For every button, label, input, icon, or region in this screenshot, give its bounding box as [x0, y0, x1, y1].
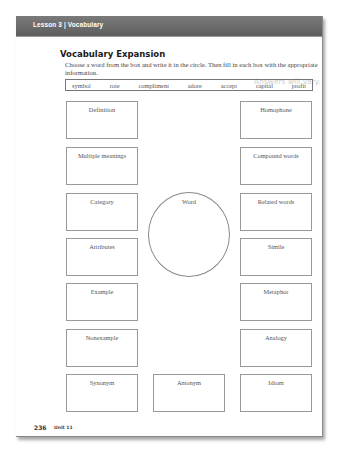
word-bank-item: rote	[110, 82, 120, 89]
box-label: Metaphor	[241, 288, 311, 295]
word-bank-item: adore	[188, 82, 202, 89]
related-words-box[interactable]: Related words	[240, 193, 312, 231]
lesson-header-bar: Lesson 3 | Vocabulary	[16, 16, 322, 37]
box-label: Related words	[241, 198, 311, 205]
box-label: Attributes	[67, 243, 137, 250]
box-label: Nonexample	[67, 334, 137, 341]
box-label: Category	[67, 198, 137, 205]
nonexample-box[interactable]: Nonexample	[66, 329, 138, 367]
definition-box[interactable]: Definition	[66, 101, 138, 139]
unit-label: Unit 11	[54, 425, 73, 430]
compound-words-box[interactable]: Compound words	[240, 147, 312, 185]
idiom-box[interactable]: Idiom	[240, 374, 312, 412]
lesson-title: Lesson 3 | Vocabulary	[33, 21, 103, 28]
box-label: Simile	[241, 243, 311, 250]
box-label: Homophone	[241, 106, 311, 113]
page-number: 236	[34, 424, 47, 431]
synonym-box[interactable]: Synonym	[66, 374, 138, 412]
workbook-page: Lesson 3 | Vocabulary Vocabulary Expansi…	[16, 16, 323, 437]
multiple-meanings-box[interactable]: Multiple meanings	[66, 147, 138, 185]
word-bank: symbol rote compliment adore accept capi…	[65, 79, 313, 91]
antonym-box[interactable]: Antonym	[153, 374, 225, 412]
instructions: Choose a word from the box and write it …	[65, 61, 320, 77]
box-label: Example	[67, 288, 137, 295]
word-bank-item: capital	[256, 82, 273, 89]
box-label: Compound words	[241, 152, 311, 159]
homophone-box[interactable]: Homophone	[240, 101, 312, 139]
section-title: Vocabulary Expansion	[60, 49, 165, 59]
box-label: Definition	[67, 106, 137, 113]
box-label: Synonym	[67, 379, 137, 386]
word-bank-item: compliment	[138, 82, 169, 89]
word-bank-item: accept	[221, 82, 237, 89]
analogy-box[interactable]: Analogy	[240, 329, 312, 367]
simile-box[interactable]: Simile	[240, 238, 312, 276]
attributes-box[interactable]: Attributes	[66, 238, 138, 276]
box-label: Antonym	[154, 379, 224, 386]
metaphor-box[interactable]: Metaphor	[240, 283, 312, 321]
word-bank-item: profit	[292, 82, 306, 89]
category-box[interactable]: Category	[66, 193, 138, 231]
word-circle[interactable]: Word	[148, 192, 230, 277]
box-label: Multiple meanings	[67, 152, 137, 159]
box-label: Analogy	[241, 334, 311, 341]
example-box[interactable]: Example	[66, 283, 138, 321]
box-label: Idiom	[241, 379, 311, 386]
circle-label: Word	[149, 198, 229, 205]
word-bank-item: symbol	[72, 82, 91, 89]
